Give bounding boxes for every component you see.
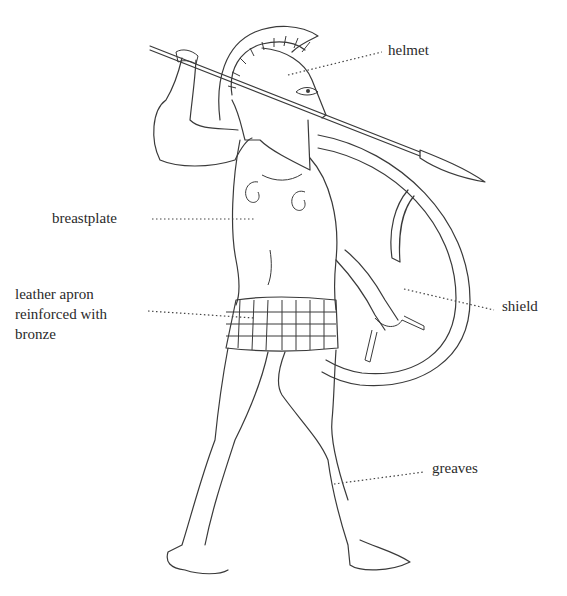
helmet-leader (288, 52, 382, 75)
greaves-leader (334, 472, 424, 484)
shield-leader (404, 289, 494, 310)
label-greaves: greaves (432, 458, 478, 478)
label-breastplate: breastplate (52, 208, 117, 228)
label-apron: leather apron reinforced with bronze (15, 284, 155, 344)
apron-leader (148, 311, 254, 318)
label-apron-line3: bronze (15, 324, 155, 344)
label-apron-line1: leather apron (15, 284, 155, 304)
label-helmet: helmet (388, 40, 429, 60)
label-shield: shield (502, 296, 538, 316)
label-apron-line2: reinforced with (15, 304, 155, 324)
